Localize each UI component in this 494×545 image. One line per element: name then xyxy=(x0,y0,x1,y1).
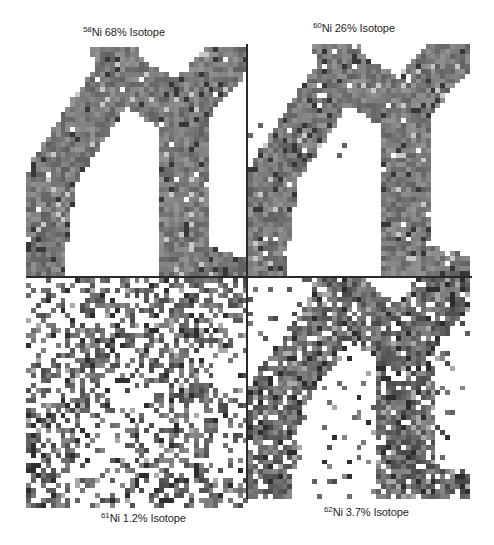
isotope-map-ni62 xyxy=(248,277,470,499)
label-text: Ni 26% Isotope xyxy=(322,22,395,34)
label-ni62: 62Ni 3.7% Isotope xyxy=(324,506,409,518)
horizontal-divider xyxy=(26,276,472,278)
ion-image-ni61 xyxy=(26,278,248,508)
ion-image-ni60 xyxy=(248,44,470,276)
vertical-divider xyxy=(246,44,248,499)
mass-number: 60 xyxy=(313,21,322,30)
label-text: Ni 1.2% Isotope xyxy=(110,512,186,524)
isotope-map-ni58 xyxy=(26,47,248,277)
ion-image-ni58 xyxy=(26,47,248,277)
label-ni61: 61Ni 1.2% Isotope xyxy=(101,512,186,524)
label-ni58: 58Ni 68% Isotope xyxy=(83,26,165,38)
isotope-map-ni61 xyxy=(26,278,248,508)
mass-number: 58 xyxy=(83,25,92,34)
label-text: Ni 68% Isotope xyxy=(92,26,165,38)
label-ni60: 60Ni 26% Isotope xyxy=(313,22,395,34)
label-text: Ni 3.7% Isotope xyxy=(333,506,409,518)
mass-number: 62 xyxy=(324,505,333,514)
ion-image-ni62 xyxy=(248,277,470,499)
mass-number: 61 xyxy=(101,511,110,520)
isotope-map-ni60 xyxy=(248,44,470,276)
